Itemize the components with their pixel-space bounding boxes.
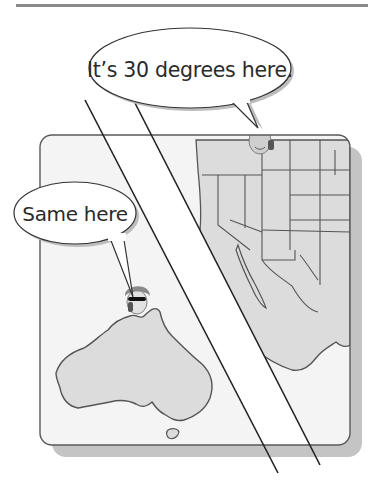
split-map-illustration: It’s 30 degrees here. Same here <box>0 0 368 482</box>
map-panel <box>40 100 350 473</box>
phone-icon <box>128 302 133 312</box>
phone-icon <box>268 140 274 150</box>
speech-text-australia: Same here <box>22 202 127 226</box>
speech-text-north-america: It’s 30 degrees here. <box>87 58 293 82</box>
top-rule <box>16 4 368 7</box>
north-america-person <box>232 150 293 248</box>
winter-hat-head <box>248 126 274 154</box>
sunglasses-icon <box>128 297 146 301</box>
